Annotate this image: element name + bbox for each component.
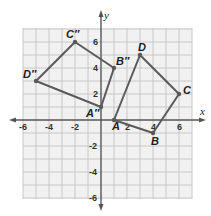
y-tick-label: 6 xyxy=(93,37,98,47)
vertex-label: B″ xyxy=(116,55,130,67)
vertex-label: B xyxy=(151,135,159,147)
x-axis-label: x xyxy=(199,105,205,117)
coordinate-plane: yx -6-4-2246642-2-4-6 ABCDA″B″C″D″ xyxy=(0,0,211,216)
vertex-label: D″ xyxy=(23,68,37,80)
x-axis-left-arrow-icon xyxy=(9,118,16,123)
y-axis-label: y xyxy=(103,9,109,21)
y-tick-label: -2 xyxy=(89,141,97,151)
vertex-label: C xyxy=(183,84,192,96)
x-axis-right-arrow-icon xyxy=(199,118,206,123)
vertex-label: C″ xyxy=(66,28,80,40)
vertex-label: A″ xyxy=(85,107,100,119)
y-tick-label: -6 xyxy=(89,193,97,203)
vertex-point xyxy=(138,53,142,57)
x-tick-label: -4 xyxy=(45,122,53,132)
x-tick-label: 6 xyxy=(177,122,182,132)
y-tick-label: 4 xyxy=(93,63,98,73)
x-tick-label: -2 xyxy=(71,122,79,132)
y-axis-up-arrow-icon xyxy=(99,10,104,17)
x-tick-label: -6 xyxy=(19,122,27,132)
vertex-point xyxy=(99,105,103,109)
y-tick-label: 2 xyxy=(93,89,98,99)
vertex-label: D xyxy=(138,41,146,53)
vertex-label: A xyxy=(111,120,120,132)
y-tick-label: -4 xyxy=(89,167,97,177)
y-axis-down-arrow-icon xyxy=(99,204,104,211)
vertex-point xyxy=(177,92,181,96)
vertex-point xyxy=(73,40,77,44)
